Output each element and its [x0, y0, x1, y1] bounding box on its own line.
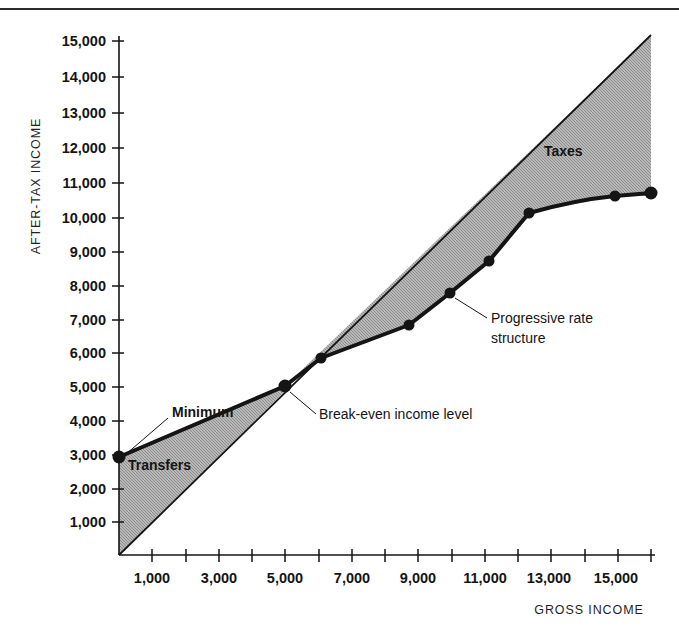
x-tick-label: 9,000	[400, 570, 436, 586]
annotation-breakeven: Break-even income level	[319, 406, 472, 422]
x-tick-label: 3,000	[201, 570, 237, 586]
marker-point	[404, 320, 415, 331]
marker-point	[610, 191, 621, 202]
y-tick-label: 8,000	[70, 278, 106, 294]
y-tick-label: 9,000	[70, 244, 106, 260]
y-tick-label: 5,000	[70, 379, 106, 395]
chart-canvas: 15,000 14,000 13,000 12,000 11,000 10,00…	[0, 0, 679, 632]
y-tick-label: 13,000	[62, 105, 106, 121]
annotation-transfers: Transfers	[128, 457, 191, 473]
y-tick-label: 12,000	[62, 140, 106, 156]
y-axis-ticks	[112, 41, 124, 522]
marker-breakeven	[279, 380, 292, 393]
y-tick-label: 15,000	[62, 33, 106, 49]
annotation-progressive-line1: Progressive rate	[491, 310, 593, 326]
x-tick-label: 5,000	[267, 570, 303, 586]
x-tick-label: 1,000	[134, 570, 170, 586]
annotation-progressive-line2: structure	[491, 330, 546, 346]
y-tick-label: 7,000	[70, 312, 106, 328]
figure-root: 15,000 14,000 13,000 12,000 11,000 10,00…	[0, 0, 679, 632]
leader-breakeven	[290, 392, 316, 414]
annotation-minimum: Minimum	[172, 404, 233, 420]
y-tick-label: 1,000	[70, 514, 106, 530]
x-tick-label: 11,000	[463, 570, 507, 586]
x-tick-label: 13,000	[527, 570, 571, 586]
marker-point	[524, 208, 535, 219]
marker-point	[484, 256, 495, 267]
marker-endpoint	[645, 187, 658, 200]
y-tick-label: 4,000	[70, 413, 106, 429]
y-tick-label: 6,000	[70, 345, 106, 361]
x-axis-title: GROSS INCOME	[534, 603, 643, 617]
y-tick-label: 10,000	[62, 210, 106, 226]
leader-progressive	[455, 298, 487, 318]
y-tick-label: 3,000	[70, 447, 106, 463]
marker-point	[445, 288, 456, 299]
y-tick-label: 14,000	[62, 69, 106, 85]
annotation-taxes: Taxes	[544, 143, 583, 159]
y-axis-title: AFTER-TAX INCOME	[29, 118, 43, 254]
x-tick-labels: 1,000 3,000 5,000 7,000 9,000 11,000 13,…	[134, 570, 638, 586]
y-tick-label: 11,000	[62, 175, 106, 191]
y-tick-label: 2,000	[70, 481, 106, 497]
marker-minimum	[113, 451, 126, 464]
x-tick-label: 15,000	[594, 570, 638, 586]
series-45-degree-line	[119, 35, 651, 555]
y-tick-labels: 15,000 14,000 13,000 12,000 11,000 10,00…	[62, 33, 106, 530]
marker-point	[316, 353, 327, 364]
x-tick-label: 7,000	[334, 570, 370, 586]
